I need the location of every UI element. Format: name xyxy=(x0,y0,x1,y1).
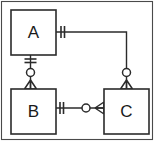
entity-b-label: B xyxy=(28,102,39,121)
relationship-b-c[interactable] xyxy=(56,102,104,114)
entity-a[interactable]: A xyxy=(11,10,56,55)
entity-c[interactable]: C xyxy=(104,89,149,134)
relationship-a-c[interactable] xyxy=(56,26,133,89)
relationship-a-b[interactable] xyxy=(25,55,37,89)
entity-c-label: C xyxy=(120,102,132,121)
relationship-a-c-line xyxy=(56,32,127,89)
er-diagram-canvas: A B C xyxy=(0,0,154,141)
er-diagram-svg: A B C xyxy=(0,0,154,141)
entity-b[interactable]: B xyxy=(11,89,56,134)
entity-a-label: A xyxy=(28,23,40,42)
